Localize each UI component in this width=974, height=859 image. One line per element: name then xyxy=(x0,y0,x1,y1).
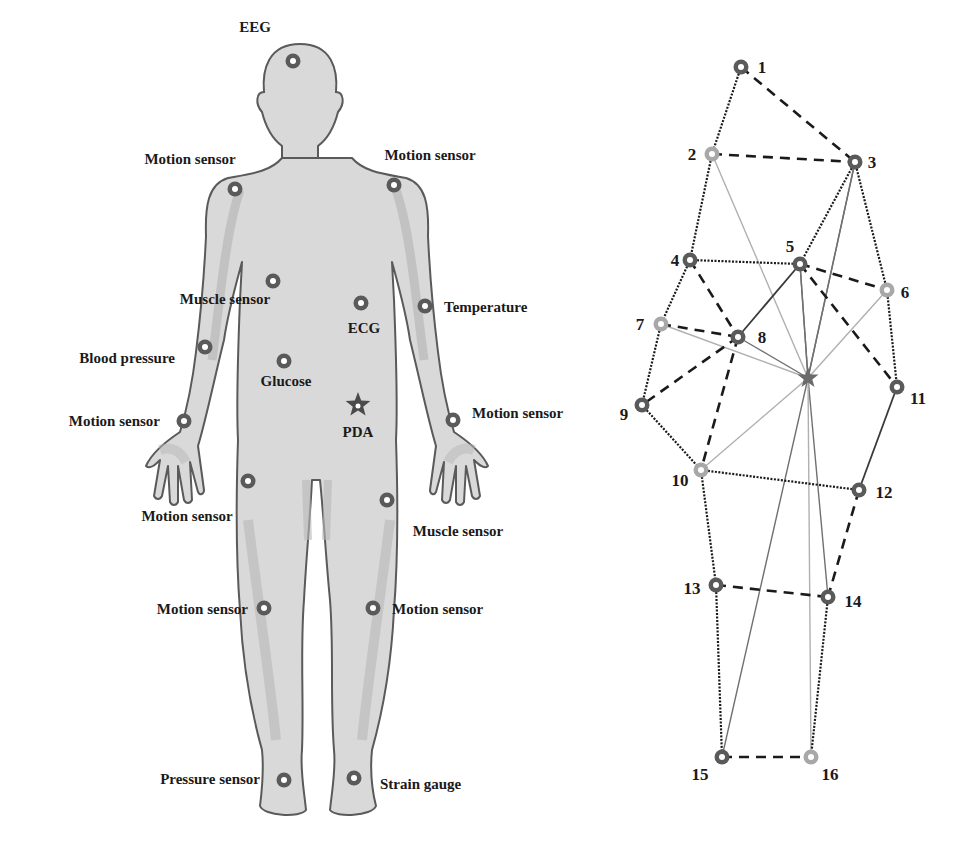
node-label-16: 16 xyxy=(822,765,839,784)
sensor-motion-knee-right-icon xyxy=(366,601,381,616)
sensor-pressure-foot-icon xyxy=(277,773,292,788)
hub-link-layer xyxy=(661,154,887,757)
edge-6-11 xyxy=(887,290,897,387)
hub-link-14 xyxy=(808,378,828,597)
edge-7-8 xyxy=(661,324,738,337)
sensor-label-blood-pressure: Blood pressure xyxy=(79,350,175,366)
node-label-4: 4 xyxy=(671,251,680,270)
figure-canvas: EEGMotion sensorMotion sensorMuscle sens… xyxy=(0,0,974,859)
node-label-8: 8 xyxy=(758,328,767,347)
node-1-icon xyxy=(734,60,749,75)
edge-10-13 xyxy=(701,470,716,585)
sensor-muscle-chest-icon xyxy=(266,274,281,289)
edge-2-4 xyxy=(690,154,712,260)
edge-7-9 xyxy=(642,324,661,405)
node-label-layer: 12345678910111213141516 xyxy=(620,58,926,784)
edge-5-11 xyxy=(800,264,897,387)
node-16-icon xyxy=(804,750,819,765)
sensor-motion-wrist-right-icon xyxy=(446,413,461,428)
node-5-icon xyxy=(793,257,808,272)
sensor-motion-shoulder-right-icon xyxy=(387,178,402,193)
edge-3-5 xyxy=(800,162,855,264)
sensor-label-strain-gauge: Strain gauge xyxy=(380,776,462,792)
hub-link-10 xyxy=(701,378,808,470)
edge-10-12 xyxy=(701,470,859,490)
node-11-icon xyxy=(890,380,905,395)
edge-8-9 xyxy=(642,337,738,405)
sensor-blood-pressure-icon xyxy=(198,340,213,355)
sensor-label-glucose: Glucose xyxy=(261,373,312,389)
node-label-1: 1 xyxy=(758,58,767,77)
edge-3-6 xyxy=(855,162,887,290)
edge-9-10 xyxy=(642,405,701,470)
edge-11-12 xyxy=(859,387,897,490)
edge-1-3 xyxy=(741,67,855,162)
sensor-label-ecg: ECG xyxy=(348,320,381,336)
node-4-icon xyxy=(683,253,698,268)
hub-link-3 xyxy=(808,162,855,378)
sensor-label-temperature: Temperature xyxy=(444,299,528,315)
sensor-eeg-icon xyxy=(286,54,301,69)
node-label-2: 2 xyxy=(688,145,697,164)
node-label-12: 12 xyxy=(876,483,893,502)
sensor-label-eeg: EEG xyxy=(239,19,271,35)
node-label-5: 5 xyxy=(786,237,795,256)
pda-label: PDA xyxy=(343,424,374,440)
node-label-6: 6 xyxy=(901,283,910,302)
node-14-icon xyxy=(821,590,836,605)
sensor-temperature-icon xyxy=(418,299,433,314)
node-label-3: 3 xyxy=(868,153,877,172)
sensor-motion-thigh-left-icon xyxy=(241,474,256,489)
sensor-motion-shoulder-left-icon xyxy=(228,182,243,197)
edge-14-16 xyxy=(811,597,828,757)
sensor-label-motion-knee-right: Motion sensor xyxy=(392,601,484,617)
hub-link-8 xyxy=(738,337,808,378)
sensor-motion-knee-left-icon xyxy=(257,601,272,616)
edge-5-8 xyxy=(738,264,800,337)
node-label-14: 14 xyxy=(845,592,863,611)
node-label-13: 13 xyxy=(684,579,701,598)
inner-leg-shade xyxy=(306,480,328,540)
sensor-label-motion-thigh-left: Motion sensor xyxy=(141,508,233,524)
node-label-9: 9 xyxy=(620,405,629,424)
node-label-10: 10 xyxy=(672,471,689,490)
sensor-label-muscle-thigh-right: Muscle sensor xyxy=(413,523,504,539)
edge-13-14 xyxy=(716,585,828,597)
edge-12-14 xyxy=(828,490,859,597)
node-label-7: 7 xyxy=(636,315,645,334)
sensor-label-motion-wrist-right: Motion sensor xyxy=(472,405,564,421)
edge-4-8 xyxy=(690,260,738,337)
sensor-glucose-icon xyxy=(277,354,292,369)
node-9-icon xyxy=(635,398,650,413)
sensor-motion-wrist-left-icon xyxy=(177,414,192,429)
sensor-label-motion-knee-left: Motion sensor xyxy=(157,601,249,617)
sensor-label-motion-shoulder-left: Motion sensor xyxy=(144,151,236,167)
edge-1-2 xyxy=(712,67,741,154)
edge-5-6 xyxy=(800,264,887,290)
node-10-icon xyxy=(694,463,709,478)
sensor-label-motion-shoulder-right: Motion sensor xyxy=(384,147,476,163)
node-label-11: 11 xyxy=(910,389,926,408)
edge-4-5 xyxy=(690,260,800,264)
node-12-icon xyxy=(852,483,867,498)
node-7-icon xyxy=(654,317,669,332)
node-15-icon xyxy=(715,750,730,765)
edge-2-3 xyxy=(712,154,855,162)
node-8-icon xyxy=(731,330,746,345)
sensor-label-muscle-chest: Muscle sensor xyxy=(180,291,271,307)
hub-link-6 xyxy=(808,290,887,378)
sensor-muscle-thigh-right-icon xyxy=(380,493,395,508)
node-label-15: 15 xyxy=(692,765,709,784)
sensor-label-motion-wrist-left: Motion sensor xyxy=(69,413,161,429)
node-3-icon xyxy=(848,155,863,170)
edge-8-10 xyxy=(701,337,738,470)
node-6-icon xyxy=(880,283,895,298)
sensor-strain-gauge-icon xyxy=(347,771,362,786)
hub-link-16 xyxy=(808,378,811,757)
edge-13-15 xyxy=(716,585,722,757)
sensor-ecg-icon xyxy=(354,296,369,311)
node-13-icon xyxy=(709,578,724,593)
hub-link-15 xyxy=(722,378,808,757)
node-2-icon xyxy=(705,147,720,162)
sensor-label-pressure-foot: Pressure sensor xyxy=(160,771,260,787)
